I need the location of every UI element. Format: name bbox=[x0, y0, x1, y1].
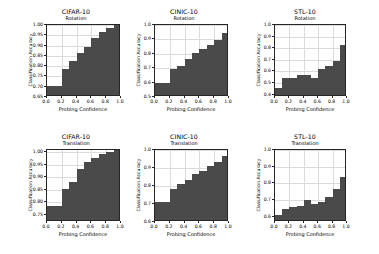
x-tick-mark bbox=[198, 96, 199, 98]
plot-axes: 0.60.70.80.91.00.00.20.40.60.81.0Probing… bbox=[274, 149, 346, 221]
y-tick-label: 0.6 bbox=[251, 68, 271, 73]
x-tick-mark bbox=[317, 96, 318, 98]
y-tick-mark bbox=[272, 59, 274, 60]
y-tick-label: 1.0 bbox=[131, 147, 151, 152]
x-axis-label: Probing Confidence bbox=[46, 231, 120, 237]
y-axis-label: Classification Accuracy bbox=[136, 24, 141, 96]
x-tick-label: 1.0 bbox=[221, 224, 235, 229]
y-tick-label: 0.80 bbox=[23, 199, 43, 204]
x-tick-mark bbox=[332, 96, 333, 98]
x-tick-label: 1.0 bbox=[113, 99, 127, 104]
plot-axes: 0.50.60.70.80.91.00.00.20.40.60.81.0Prob… bbox=[154, 24, 228, 96]
chart-panel: CIFAR-10Rotation0.650.700.750.800.850.90… bbox=[22, 8, 130, 126]
y-tick-label: 0.7 bbox=[251, 56, 271, 61]
y-tick-mark bbox=[272, 24, 274, 25]
bar bbox=[340, 177, 346, 220]
x-tick-label: 0.8 bbox=[206, 224, 220, 229]
y-tick-mark bbox=[44, 86, 46, 87]
y-tick-mark bbox=[44, 55, 46, 56]
y-tick-mark bbox=[272, 82, 274, 83]
y-tick-mark bbox=[272, 182, 274, 183]
gridline-horizontal bbox=[275, 150, 345, 151]
x-tick-mark bbox=[303, 221, 304, 223]
y-tick-label: 0.85 bbox=[23, 186, 43, 191]
gridline-horizontal bbox=[275, 25, 345, 26]
x-tick-label: 0.4 bbox=[69, 99, 83, 104]
y-tick-label: 0.90 bbox=[23, 174, 43, 179]
y-tick-label: 0.75 bbox=[23, 73, 43, 78]
y-tick-label: 0.7 bbox=[131, 65, 151, 70]
y-axis-label: Classification Accuracy bbox=[28, 24, 33, 96]
x-tick-mark bbox=[105, 221, 106, 223]
x-tick-mark bbox=[346, 221, 347, 223]
y-tick-mark bbox=[272, 199, 274, 200]
x-axis-label: Probing Confidence bbox=[274, 106, 346, 112]
y-tick-label: 0.5 bbox=[131, 94, 151, 99]
y-tick-label: 0.90 bbox=[23, 42, 43, 47]
chart-panel: STL-10Translation0.60.70.80.91.00.00.20.… bbox=[242, 133, 368, 251]
x-tick-label: 0.2 bbox=[281, 99, 295, 104]
plot-axes: 0.750.800.850.900.951.000.00.20.40.60.81… bbox=[46, 149, 120, 221]
x-axis-label: Probing Confidence bbox=[46, 106, 120, 112]
x-tick-label: 0.2 bbox=[162, 224, 176, 229]
x-tick-label: 0.0 bbox=[267, 99, 281, 104]
x-tick-label: 0.0 bbox=[267, 224, 281, 229]
y-tick-mark bbox=[44, 214, 46, 215]
x-tick-label: 0.8 bbox=[98, 224, 112, 229]
y-tick-label: 0.80 bbox=[23, 63, 43, 68]
y-tick-mark bbox=[272, 149, 274, 150]
x-tick-mark bbox=[61, 221, 62, 223]
x-tick-mark bbox=[288, 96, 289, 98]
x-tick-label: 0.0 bbox=[147, 224, 161, 229]
x-tick-mark bbox=[76, 221, 77, 223]
x-tick-mark bbox=[228, 96, 229, 98]
x-tick-mark bbox=[184, 221, 185, 223]
x-tick-label: 0.8 bbox=[325, 99, 339, 104]
x-tick-label: 0.2 bbox=[54, 224, 68, 229]
y-tick-mark bbox=[152, 53, 154, 54]
x-tick-mark bbox=[198, 221, 199, 223]
y-tick-mark bbox=[44, 151, 46, 152]
y-tick-label: 0.6 bbox=[131, 219, 151, 224]
chart-panel: CINIC-10Rotation0.50.60.70.80.91.00.00.2… bbox=[130, 8, 238, 126]
y-tick-label: 0.8 bbox=[131, 183, 151, 188]
gridline-horizontal bbox=[275, 37, 345, 38]
chart-subtitle: Rotation bbox=[22, 15, 130, 21]
y-tick-label: 0.6 bbox=[251, 213, 271, 218]
x-tick-label: 0.0 bbox=[147, 99, 161, 104]
x-tick-mark bbox=[105, 96, 106, 98]
y-tick-mark bbox=[152, 185, 154, 186]
y-tick-label: 0.7 bbox=[131, 201, 151, 206]
y-tick-mark bbox=[152, 167, 154, 168]
y-tick-label: 0.75 bbox=[23, 211, 43, 216]
plot-axes: 0.650.700.750.800.850.900.951.000.00.20.… bbox=[46, 24, 120, 96]
y-tick-mark bbox=[272, 94, 274, 95]
chart-panel: CIFAR-10Translation0.750.800.850.900.951… bbox=[22, 133, 130, 251]
y-tick-label: 0.5 bbox=[251, 80, 271, 85]
y-tick-mark bbox=[44, 45, 46, 46]
y-tick-mark bbox=[44, 189, 46, 190]
x-tick-label: 0.8 bbox=[325, 224, 339, 229]
x-tick-label: 0.4 bbox=[296, 224, 310, 229]
y-tick-label: 1.00 bbox=[23, 22, 43, 27]
figure-canvas: CIFAR-10Rotation0.650.700.750.800.850.90… bbox=[0, 0, 379, 254]
x-tick-label: 0.8 bbox=[98, 99, 112, 104]
plot-area bbox=[274, 149, 346, 221]
y-tick-mark bbox=[152, 203, 154, 204]
y-tick-mark bbox=[272, 47, 274, 48]
x-tick-mark bbox=[90, 221, 91, 223]
y-tick-label: 0.9 bbox=[251, 163, 271, 168]
y-tick-mark bbox=[152, 67, 154, 68]
plot-area bbox=[274, 24, 346, 96]
chart-title: STL-10 bbox=[242, 8, 368, 15]
x-tick-mark bbox=[154, 96, 155, 98]
y-tick-mark bbox=[44, 75, 46, 76]
y-tick-mark bbox=[152, 24, 154, 25]
x-tick-label: 0.4 bbox=[296, 99, 310, 104]
bar bbox=[114, 150, 120, 220]
y-tick-mark bbox=[44, 201, 46, 202]
chart-panel: CINIC-10Translation0.60.70.80.91.00.00.2… bbox=[130, 133, 238, 251]
y-tick-mark bbox=[44, 24, 46, 25]
gridline-horizontal bbox=[47, 25, 119, 26]
x-axis-label: Probing Confidence bbox=[274, 231, 346, 237]
